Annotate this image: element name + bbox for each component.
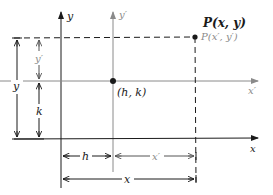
dashed-vertical-guide xyxy=(195,37,196,182)
point-p-prime-label: P(x′, y′) xyxy=(200,31,238,42)
dashed-horizontal-guide xyxy=(14,37,195,38)
x-prime-axis-label: x′ xyxy=(248,85,257,96)
x-axis xyxy=(14,138,258,139)
x-axis-label: x xyxy=(250,143,256,154)
dimension-h-label: h xyxy=(82,150,89,163)
point-p-label: P(x, y) xyxy=(202,16,246,30)
dimension-k-label: k xyxy=(36,105,43,118)
dimension-y-label: y xyxy=(12,80,20,93)
y-prime-axis-label: y′ xyxy=(118,9,128,20)
new-origin-point xyxy=(110,78,116,84)
y-axis-label: y xyxy=(66,10,74,23)
translation-of-axes-diagram: y y′ x x′ (h, k) P(x, y) P(x′, y′) y y′ … xyxy=(0,0,273,195)
new-origin-label: (h, k) xyxy=(117,86,146,99)
dimension-x-label: x xyxy=(124,173,131,186)
dimension-x-prime-label: x′ xyxy=(152,151,161,162)
dimension-y-prime-label: y′ xyxy=(34,53,44,64)
point-p xyxy=(192,34,197,39)
